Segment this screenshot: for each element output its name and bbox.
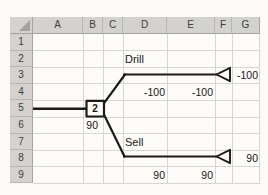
select-all-corner[interactable] xyxy=(10,17,33,34)
row-header-1[interactable]: 1 xyxy=(10,34,33,51)
drill-end-node-triangle[interactable] xyxy=(217,68,231,81)
row-header-6[interactable]: 6 xyxy=(10,117,33,134)
column-header-B[interactable]: B xyxy=(83,17,103,34)
row-header-7[interactable]: 7 xyxy=(10,134,33,151)
row-header-8[interactable]: 8 xyxy=(10,150,33,167)
cell-D9-value[interactable]: 90 xyxy=(123,167,165,184)
decision-node-label[interactable]: 2 xyxy=(86,101,104,117)
column-header-C[interactable]: C xyxy=(103,17,123,34)
select-all-triangle-icon xyxy=(19,20,30,31)
column-header-D[interactable]: D xyxy=(123,17,167,34)
row-header-5[interactable]: 5 xyxy=(10,100,33,117)
sell-end-node-triangle[interactable] xyxy=(217,150,231,163)
cell-D4-value[interactable]: -100 xyxy=(123,84,165,101)
drill-branch-diagonal-line xyxy=(104,75,126,104)
row-header-9[interactable]: 9 xyxy=(10,167,33,184)
row-header-3[interactable]: 3 xyxy=(10,67,33,84)
cell-B6-root-value[interactable]: 90 xyxy=(83,117,98,134)
column-header-E[interactable]: E xyxy=(167,17,215,34)
row-header-2[interactable]: 2 xyxy=(10,51,33,68)
column-header-F[interactable]: F xyxy=(215,17,232,34)
cell-D2-drill-label[interactable]: Drill xyxy=(125,51,144,68)
cell-E9-value[interactable]: 90 xyxy=(167,167,213,184)
cell-E4-value[interactable]: -100 xyxy=(167,84,213,101)
cell-G8-sell-end-value[interactable]: 90 xyxy=(232,150,258,167)
cell-D7-sell-label[interactable]: Sell xyxy=(125,134,143,151)
cell-G3-drill-end-value[interactable]: -100 xyxy=(232,67,258,84)
column-header-G[interactable]: G xyxy=(232,17,260,34)
row-header-4[interactable]: 4 xyxy=(10,84,33,101)
column-header-A[interactable]: A xyxy=(33,17,83,34)
